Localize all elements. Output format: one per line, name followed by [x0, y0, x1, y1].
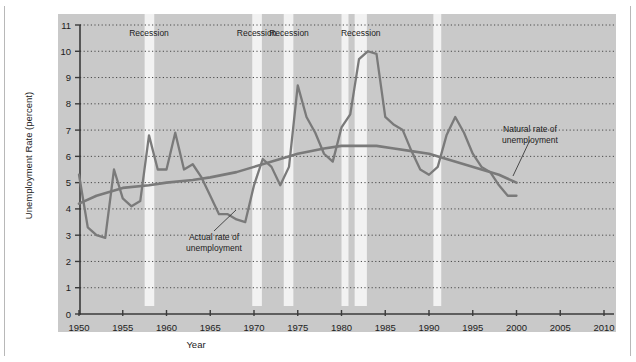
y-tick-label: 3 [66, 230, 71, 241]
y-tick-labels: 01234567891011 [60, 20, 71, 320]
actual-annotation-line2: unemployment [186, 243, 242, 253]
recession-band-labels: RecessionRecessionRecessionRecession [129, 28, 381, 38]
recession-label: Recession [129, 28, 169, 38]
x-tick-label: 1990 [418, 322, 439, 333]
y-tick-label: 5 [66, 177, 71, 188]
y-tick-label: 1 [66, 282, 71, 293]
recession-label: Recession [269, 28, 309, 38]
recession-band [284, 14, 294, 306]
natural-annotation-leader [513, 140, 530, 176]
x-tick-labels: 1950195519601965197019751980198519901995… [68, 322, 614, 333]
x-tick-label: 2010 [593, 322, 614, 333]
x-tick-label: 1960 [156, 322, 177, 333]
figure-container: 1950195519601965197019751980198519901995… [0, 0, 636, 362]
y-tick-label: 4 [66, 203, 71, 214]
unemployment-line-chart: 1950195519601965197019751980198519901995… [0, 0, 636, 362]
x-tick-label: 1955 [112, 322, 133, 333]
y-tick-label: 8 [66, 98, 71, 109]
x-tick-label: 1975 [287, 322, 308, 333]
recession-label: Recession [341, 28, 381, 38]
x-tick-label: 2000 [506, 322, 527, 333]
actual-annotation-line1: Actual rate of [189, 232, 240, 242]
y-tick-label: 0 [66, 309, 71, 320]
x-tick-label: 1985 [375, 322, 396, 333]
y-tick-label: 7 [66, 125, 71, 136]
recession-band [252, 14, 262, 306]
natural-annotation-line2: unemployment [502, 135, 558, 145]
x-tick-label: 2005 [550, 322, 571, 333]
y-tick-label: 11 [61, 20, 71, 31]
y-axis-title: Unemployment Rate (percent) [23, 36, 34, 276]
x-tick-label: 1995 [462, 322, 483, 333]
y-tick-label: 6 [66, 151, 71, 162]
recession-band [342, 14, 349, 306]
y-tick-label: 10 [60, 46, 71, 57]
y-tick-label: 9 [66, 72, 71, 83]
x-tick-label: 1950 [68, 322, 89, 333]
recession-bands [145, 14, 442, 306]
x-tick-label: 1970 [243, 322, 264, 333]
natural-annotation-line1: Natural rate of [503, 124, 557, 134]
x-tick-label: 1965 [200, 322, 221, 333]
y-tick-label: 2 [66, 256, 71, 267]
x-axis-title: Year [186, 339, 205, 350]
x-tick-label: 1980 [331, 322, 352, 333]
